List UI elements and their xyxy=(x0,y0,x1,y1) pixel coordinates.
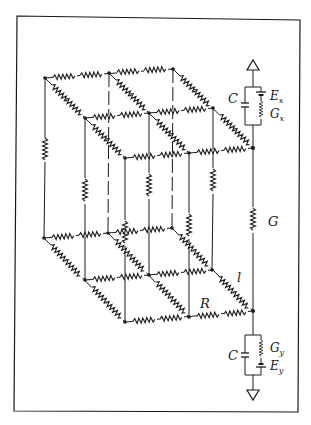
label-vertical-conductance: G xyxy=(268,214,278,229)
label-resistance: R xyxy=(199,296,210,311)
label-lateral-length: l xyxy=(237,270,241,285)
terminal-up-icon xyxy=(247,60,259,70)
label-conductance-bottom: Gy xyxy=(270,341,285,357)
top-source-branch xyxy=(241,60,266,148)
face-resistors xyxy=(49,66,251,323)
label-emf-top: Ex xyxy=(269,89,284,105)
bottom-source-branch xyxy=(241,311,266,400)
label-capacitor-bottom: C xyxy=(228,348,238,363)
labels: C Ex Gx G l R C Gy Ey xyxy=(199,89,285,375)
label-emf-bottom: Ey xyxy=(269,359,284,375)
resistor-network-diagram: C Ex Gx G l R C Gy Ey xyxy=(0,0,311,425)
terminal-down-icon xyxy=(247,390,259,400)
figure-frame xyxy=(14,16,300,412)
label-capacitor-top: C xyxy=(228,91,238,106)
label-conductance-top: Gx xyxy=(270,107,285,123)
